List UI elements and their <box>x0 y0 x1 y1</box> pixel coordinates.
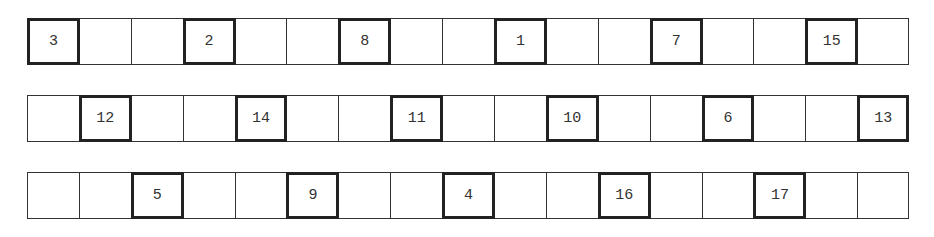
empty-cell <box>494 172 546 219</box>
numbered-cell: 5 <box>131 172 183 219</box>
numbered-cell: 6 <box>702 95 754 142</box>
empty-cell <box>235 18 287 65</box>
empty-cell <box>753 95 805 142</box>
empty-cell <box>650 95 702 142</box>
numbered-cell: 12 <box>79 95 131 142</box>
numbered-cell: 7 <box>650 18 702 65</box>
grid-row-3: 5941617 <box>27 172 909 219</box>
empty-cell <box>702 18 754 65</box>
empty-cell <box>805 172 857 219</box>
numbered-cell: 8 <box>338 18 390 65</box>
empty-cell <box>702 172 754 219</box>
empty-cell <box>183 95 235 142</box>
empty-cell <box>442 18 494 65</box>
empty-cell <box>546 172 598 219</box>
empty-cell <box>131 18 183 65</box>
empty-cell <box>79 18 131 65</box>
numbered-cell: 14 <box>235 95 287 142</box>
numbered-cell: 9 <box>286 172 338 219</box>
numbered-cell: 4 <box>442 172 494 219</box>
empty-cell <box>857 18 909 65</box>
empty-cell <box>546 18 598 65</box>
grid-row-2: 12141110613 <box>27 95 909 142</box>
numbered-cell: 11 <box>390 95 442 142</box>
empty-cell <box>598 18 650 65</box>
empty-cell <box>650 172 702 219</box>
numbered-cell: 15 <box>805 18 857 65</box>
empty-cell <box>338 172 390 219</box>
empty-cell <box>27 172 79 219</box>
empty-cell <box>390 172 442 219</box>
empty-cell <box>79 172 131 219</box>
numbered-cell: 2 <box>183 18 235 65</box>
empty-cell <box>183 172 235 219</box>
numbered-cell: 1 <box>494 18 546 65</box>
empty-cell <box>131 95 183 142</box>
empty-cell <box>27 95 79 142</box>
empty-cell <box>753 18 805 65</box>
numbered-cell: 13 <box>857 95 909 142</box>
numbered-cell: 16 <box>598 172 650 219</box>
grid-row-1: 3281715 <box>27 18 909 65</box>
empty-cell <box>442 95 494 142</box>
empty-cell <box>286 95 338 142</box>
empty-cell <box>857 172 909 219</box>
empty-cell <box>805 95 857 142</box>
empty-cell <box>338 95 390 142</box>
empty-cell <box>235 172 287 219</box>
numbered-cell: 17 <box>753 172 805 219</box>
empty-cell <box>598 95 650 142</box>
empty-cell <box>494 95 546 142</box>
empty-cell <box>286 18 338 65</box>
numbered-cell: 3 <box>27 18 79 65</box>
numbered-cell: 10 <box>546 95 598 142</box>
empty-cell <box>390 18 442 65</box>
